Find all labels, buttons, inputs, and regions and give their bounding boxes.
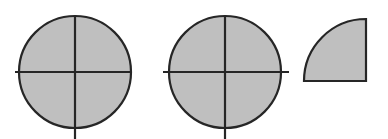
figure-canvas: Three shaded geometric figures: two circ… (0, 0, 388, 139)
shape-quarter-circle-right (304, 19, 366, 81)
shape-circle-middle (163, 15, 289, 139)
shapes-svg (0, 0, 388, 139)
shape-circle-left (15, 15, 131, 139)
